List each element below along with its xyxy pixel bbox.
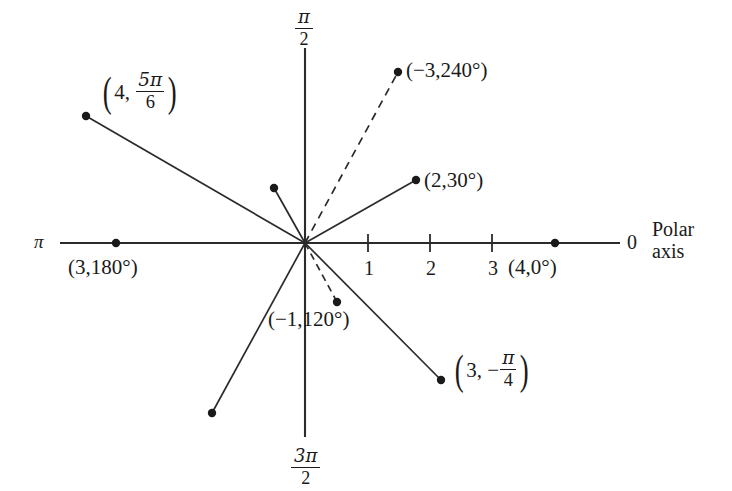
tick-label-2: 2 (422, 258, 440, 278)
point-label-3-negpi4-math: ( 3, − π 4 ) (452, 350, 532, 391)
polar-axis-caption-line2: axis (652, 240, 694, 262)
axis-label-pi: π (34, 232, 44, 251)
point-2-30deg (412, 176, 420, 184)
close-paren-glyph: ) (168, 75, 177, 109)
point-label-3-negpi4-fraction: π 4 (500, 349, 516, 390)
point-label-3-180deg: (3,180°) (68, 257, 138, 278)
half-pi-denominator: 2 (295, 29, 313, 49)
point-3-180deg (112, 239, 120, 247)
point-label-neg3-240deg: (−3,240°) (406, 60, 487, 81)
point-label-4-5pi6-denominator: 6 (136, 92, 164, 112)
half-pi-numerator: π (295, 8, 313, 29)
tick-label-3: 3 (484, 258, 502, 278)
close-paren-glyph: ) (520, 353, 529, 387)
point-unlabeled-lower-left (208, 409, 216, 417)
polar-plot-figure: π 0 Polar axis π 2 3π 2 1 2 3 (4,0°) (3,… (0, 0, 732, 491)
three-half-pi-numerator: 3π (291, 447, 320, 468)
axis-label-zero: 0 (627, 232, 637, 252)
point-label-3-negpi4-numerator: π (500, 349, 516, 370)
point-label-3-negpi4-radius: 3, (466, 360, 482, 381)
point-label-3-negpi4-denominator: 4 (500, 370, 516, 390)
axis-label-three-half-pi: 3π 2 (291, 447, 320, 488)
three-half-pi-fraction: 3π 2 (291, 447, 320, 488)
point-label-3-negpi4: ( 3, − π 4 ) (452, 350, 532, 391)
point-unlabeled-upper-left-short (270, 184, 278, 192)
point-label-4-5pi6: ( 4 , 5π 6 ) (100, 72, 180, 113)
three-half-pi-denominator: 2 (291, 468, 320, 488)
point-label-4-5pi6-radius: 4 (114, 82, 125, 103)
point-label-4-5pi6-comma: , (125, 82, 136, 103)
ray-4-5pi6 (86, 116, 305, 243)
polar-axis-caption: Polar axis (652, 218, 694, 263)
point-label-2-30deg: (2,30°) (424, 170, 483, 191)
point-neg1-120deg (333, 298, 341, 306)
polar-axis-caption-line1: Polar (652, 218, 694, 240)
tick-label-1: 1 (360, 258, 378, 278)
point-label-4-5pi6-fraction: 5π 6 (136, 71, 164, 112)
point-neg3-240deg (394, 68, 402, 76)
open-paren-glyph: ( (455, 353, 464, 387)
half-pi-fraction: π 2 (295, 8, 313, 49)
point-3-negpi4 (437, 376, 445, 384)
point-label-3-negpi4-sign: − (487, 360, 499, 381)
point-4-5pi6 (82, 112, 90, 120)
open-paren-glyph: ( (103, 75, 112, 109)
point-4-0deg (551, 239, 559, 247)
point-label-neg1-120deg: (−1,120°) (268, 309, 349, 330)
point-label-4-5pi6-numerator: 5π (136, 71, 164, 92)
axis-label-half-pi: π 2 (295, 8, 313, 49)
point-label-4-5pi6-math: ( 4 , 5π 6 ) (100, 72, 180, 113)
point-label-4-0deg: (4,0°) (508, 257, 557, 278)
ray-neg1-120deg-dashed (305, 243, 337, 302)
